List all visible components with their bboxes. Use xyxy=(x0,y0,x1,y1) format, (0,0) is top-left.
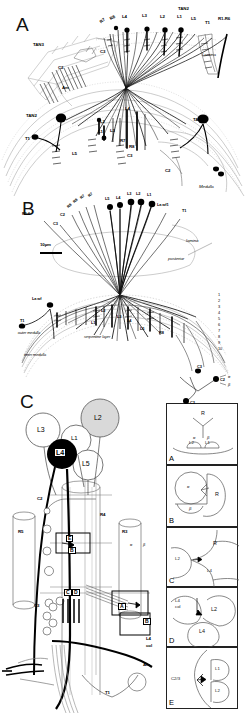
inset-column-top-neurons xyxy=(160,375,247,405)
label-c-t1: T1 xyxy=(105,691,110,695)
inset-e-label-l2: L2 xyxy=(215,688,220,693)
label-c-r4: R4 xyxy=(100,513,105,517)
label-b-l4: L4 xyxy=(116,196,120,200)
scale-label: 10µm xyxy=(40,243,51,247)
inset-panel-b: R α β B xyxy=(166,465,238,527)
layer-number: 6 xyxy=(218,323,222,327)
label-a-c2: C2 xyxy=(58,66,63,70)
label-b-lamina: lamina xyxy=(186,239,198,243)
box-marker-b-lower[interactable]: B xyxy=(143,618,151,625)
layer-number: 7 xyxy=(218,329,222,333)
panel-a-letter: A xyxy=(16,15,29,34)
inset-a-label-alpha: α xyxy=(193,435,195,440)
label-c-c2: C2 xyxy=(37,497,42,501)
label-b-l2: L2 xyxy=(136,192,140,196)
inset-c-label-l2: L2 xyxy=(175,556,180,561)
label-a-t1-top: T1 xyxy=(205,21,210,25)
layer-number: 2 xyxy=(218,299,222,303)
label-a-t1-lower: T1 xyxy=(25,137,30,141)
inset-col-label-c2: C2 xyxy=(220,378,225,382)
inset-panel-e: C2/3 L1 L2 E xyxy=(166,647,238,709)
inset-d-label-l4: L4 xyxy=(199,628,205,634)
inset-col-label-c3: C3 xyxy=(190,401,195,405)
inset-panel-a: R L2 L1 α β A xyxy=(166,403,238,465)
medulla-layer-numbers: 1 2 3 4 5 6 7 8 9 10 xyxy=(218,293,222,351)
inset-b-letter: B xyxy=(169,516,174,525)
label-b-c3-lower: C3 xyxy=(197,365,202,369)
label-a-l1: L1 xyxy=(177,15,182,19)
label-a-tan3: TAN3 xyxy=(33,43,44,47)
label-a-l3: L3 xyxy=(142,14,147,18)
soma-label-l4: L4 xyxy=(55,449,65,456)
label-c-beta: β xyxy=(143,543,145,547)
layer-number: 10 xyxy=(218,347,222,351)
label-b-l1-lower: L1 xyxy=(91,321,95,325)
label-b-l3: L3 xyxy=(127,192,131,196)
label-a-l5: L5 xyxy=(191,17,196,21)
soma-label-l5: L5 xyxy=(82,460,90,467)
panel-a: A xyxy=(0,0,247,200)
box-marker-a[interactable]: A xyxy=(118,603,126,610)
layer-number: 8 xyxy=(218,335,222,339)
figure-root: A xyxy=(0,0,247,727)
box-marker-e[interactable]: E xyxy=(66,535,73,542)
label-c-r5: R5 xyxy=(18,530,23,534)
label-c-l4col-line1: L4 xyxy=(146,637,151,641)
inset-b-drawing xyxy=(167,466,239,528)
soma-label-l1: L1 xyxy=(71,435,77,441)
label-b-t1-lower: T1 xyxy=(20,319,24,323)
label-c-alpha: α xyxy=(130,543,132,547)
inset-e-label-l1: L1 xyxy=(215,666,220,671)
inset-b-label-alpha: α xyxy=(187,484,189,489)
label-a-l2: L2 xyxy=(160,15,165,19)
box-marker-c[interactable]: C xyxy=(64,589,72,596)
label-b-lawf1: La wf1 xyxy=(157,203,169,207)
inset-panel-c: R L2 L4 C xyxy=(166,527,238,587)
label-a-tan1: TAN1 xyxy=(193,118,204,122)
inset-a-label-beta: β xyxy=(207,435,209,440)
panel-b: B xyxy=(0,185,247,375)
label-c-c3: C3 xyxy=(34,604,39,608)
inset-a-letter: A xyxy=(169,454,174,463)
label-c-am: Am xyxy=(143,663,150,667)
inset-d-label-l4col-line2: col xyxy=(175,604,181,609)
label-a-r1r6: R1-R6 xyxy=(218,17,230,21)
label-a-l1-lower: L1 xyxy=(98,130,103,134)
label-b-l4-lower: L4 xyxy=(127,319,131,323)
label-a-c3: C3 xyxy=(100,50,105,54)
label-b-l5-lower: L5 xyxy=(140,327,144,331)
label-a-r8-lower: R8 xyxy=(129,145,134,149)
inset-d-label-l2: L2 xyxy=(211,606,217,612)
label-b-posterior: posterior xyxy=(168,257,184,261)
label-b-lawf: La wf xyxy=(32,297,41,301)
label-a-l2-lower: L2 xyxy=(100,120,105,124)
label-b-l1: L1 xyxy=(147,193,151,197)
inset-col-label-beta: β xyxy=(228,383,230,387)
inset-c-label-l4: L4 xyxy=(207,568,212,573)
label-b-t1-top: T1 xyxy=(182,209,186,213)
label-a-c2-lower: C2 xyxy=(165,169,170,173)
scale-bar xyxy=(40,252,62,254)
label-b-serpentine-layer: serpentine layer xyxy=(84,335,110,339)
layer-number: 1 xyxy=(218,293,222,297)
inset-c-letter: C xyxy=(169,576,174,585)
box-marker-b-upper[interactable]: B xyxy=(68,547,76,554)
label-b-inner-medulla: inner medulla xyxy=(20,353,50,357)
label-b-r1-6: R1-6 xyxy=(22,212,30,216)
label-a-tan2-lower: TAN2 xyxy=(26,114,37,118)
soma-label-l2: L2 xyxy=(94,414,102,421)
label-a-tan2-top: TAN2 xyxy=(178,7,189,11)
label-a-l4-lower: L4 xyxy=(125,107,130,111)
label-a-lamina: Lamina xyxy=(202,53,216,57)
box-marker-d[interactable]: D xyxy=(72,589,80,596)
panel-c-letter: C xyxy=(20,392,34,411)
inset-b-label-r: R xyxy=(215,491,219,497)
panel-b-drawing xyxy=(0,185,247,375)
inset-e-label-c23: C2/3 xyxy=(171,676,180,681)
label-b-l3-lower: L3 xyxy=(117,315,121,319)
inset-c-label-r: R xyxy=(213,540,217,546)
soma-label-l3: L3 xyxy=(37,426,45,433)
inset-d-letter: D xyxy=(169,636,174,645)
inset-d-drawing xyxy=(167,588,239,648)
panel-c: C xyxy=(0,375,160,727)
